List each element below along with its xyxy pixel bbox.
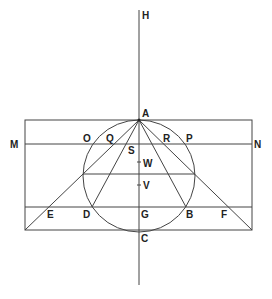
line-ad (92, 120, 139, 207)
label-h: H (142, 10, 149, 21)
label-m: M (10, 139, 18, 150)
label-o: O (83, 133, 91, 144)
line-a-to-bottom-left (25, 120, 139, 230)
label-f: F (221, 209, 227, 220)
label-s: S (128, 145, 135, 156)
point-a (138, 119, 141, 122)
label-q: Q (106, 133, 114, 144)
label-v: V (143, 180, 150, 191)
label-d: D (83, 209, 90, 220)
line-a-to-bottom-right (139, 120, 252, 230)
label-n: N (254, 139, 261, 150)
label-g: G (141, 209, 149, 220)
label-e: E (47, 209, 54, 220)
label-b: B (186, 209, 193, 220)
label-r: R (163, 133, 171, 144)
diagram-canvas: H A M N O Q R P S W V E D G B F C (0, 0, 272, 299)
geometry-diagram: H A M N O Q R P S W V E D G B F C (0, 0, 272, 299)
label-p: P (186, 133, 193, 144)
label-c: C (141, 233, 148, 244)
label-a: A (142, 108, 149, 119)
label-w: W (143, 158, 153, 169)
